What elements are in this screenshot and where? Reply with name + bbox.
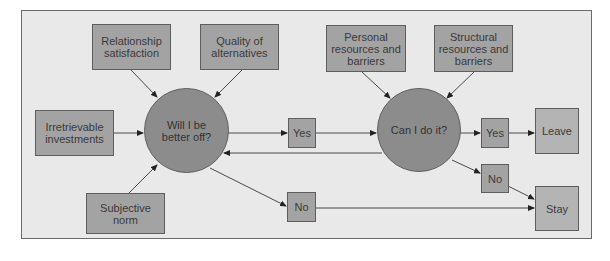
can-do-yes-label: Yes bbox=[486, 127, 504, 139]
decision-can-do-label: Can I do it? bbox=[391, 124, 447, 136]
can-do-yes-box: Yes bbox=[481, 118, 509, 148]
stay-outcome-box: Stay bbox=[535, 186, 579, 231]
better-off-yes-box: Yes bbox=[288, 118, 316, 148]
better-off-yes-label: Yes bbox=[293, 127, 311, 139]
relationship-satisfaction-box: Relationship satisfaction bbox=[92, 24, 171, 70]
leave-outcome-label: Leave bbox=[542, 125, 572, 137]
decision-better-off-label: Will I be better off? bbox=[162, 119, 211, 143]
better-off-no-label: No bbox=[294, 201, 308, 213]
subjective-norm-box: Subjective norm bbox=[86, 193, 165, 234]
irretrievable-investments-label: Irretrievable investments bbox=[45, 121, 104, 145]
leave-outcome-box: Leave bbox=[535, 108, 579, 154]
personal-resources-label: Personal resources and barriers bbox=[331, 31, 401, 67]
quality-of-alternatives-label: Quality of alternatives bbox=[211, 35, 267, 59]
better-off-no-box: No bbox=[287, 192, 316, 222]
subjective-norm-label: Subjective norm bbox=[100, 202, 151, 226]
structural-resources-box: Structural resources and barriers bbox=[434, 25, 513, 72]
can-do-no-box: No bbox=[481, 164, 509, 193]
relationship-satisfaction-label: Relationship satisfaction bbox=[101, 35, 162, 59]
stay-outcome-label: Stay bbox=[546, 203, 568, 215]
quality-of-alternatives-box: Quality of alternatives bbox=[200, 24, 279, 70]
structural-resources-label: Structural resources and barriers bbox=[439, 31, 509, 67]
decision-better-off-circle: Will I be better off? bbox=[144, 88, 229, 173]
irretrievable-investments-box: Irretrievable investments bbox=[35, 110, 114, 156]
can-do-no-label: No bbox=[488, 173, 502, 185]
decision-can-do-circle: Can I do it? bbox=[377, 88, 461, 172]
personal-resources-box: Personal resources and barriers bbox=[326, 25, 406, 72]
